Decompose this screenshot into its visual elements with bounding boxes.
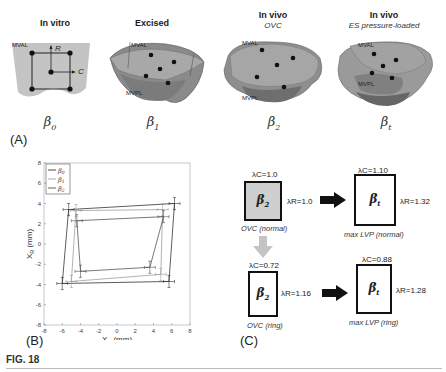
- y-axis-label: XR (mm): [25, 229, 35, 260]
- excised-valve-model: [106, 40, 206, 106]
- down-arrow-icon: [253, 236, 273, 258]
- panel-a-title-invitro: In vitro: [0, 18, 110, 28]
- caption-ovc-normal: OVC (normal): [241, 224, 287, 233]
- panel-a-label: (A): [10, 132, 27, 147]
- y-tick-label: 4: [38, 201, 42, 207]
- panel-a-subtitle-es: ES pressure-loaded: [329, 21, 439, 30]
- mval-label: MVAL: [358, 42, 374, 48]
- panel-a-title-invivo-ovc: In vivo: [218, 10, 328, 20]
- panel-a-subtitle-ovc: OVC: [218, 21, 328, 30]
- mvpl-label: MVPL: [358, 81, 374, 87]
- beta2-symbol: β2: [254, 114, 294, 132]
- caption-maxlvp-ring: max LVP (ring): [349, 318, 398, 327]
- panel-a-title-excised: Excised: [97, 18, 207, 28]
- axis-c-label: C: [78, 67, 84, 76]
- y-tick-label: 8: [38, 160, 42, 166]
- beta0-symbol: β0: [30, 114, 70, 132]
- lambda-r-ovc-normal: λR=1.0: [287, 197, 313, 206]
- figure-bottom-rule: [6, 368, 442, 369]
- panel-b-label: (B): [26, 333, 43, 348]
- caption-maxlvp-normal: max LVP (normal): [344, 230, 404, 239]
- x-tick-label: -6: [60, 328, 66, 334]
- y-tick-label: 0: [38, 241, 42, 247]
- y-tick-label: -4: [36, 282, 42, 288]
- invivo-ovc-valve-model: [222, 36, 326, 106]
- lambda-r-maxlvp-ring: λR=1.28: [396, 286, 426, 295]
- betat-label: βt: [368, 281, 379, 297]
- box-maxlvp-ring: βt: [356, 264, 392, 314]
- betat-symbol: βt: [366, 114, 406, 132]
- betat-label: βt: [369, 192, 380, 208]
- box-ovc-normal: β2: [244, 181, 282, 221]
- y-tick-label: -8: [36, 322, 42, 328]
- box-maxlvp-normal: βt: [354, 174, 396, 226]
- x-tick-label: -4: [78, 328, 84, 334]
- lambda-r-maxlvp-normal: λR=1.32: [400, 197, 430, 206]
- beta1-symbol: β1: [133, 114, 173, 132]
- y-tick-label: -6: [36, 302, 42, 308]
- x-tick-label: -2: [96, 328, 102, 334]
- x-tick-label: 8: [188, 328, 192, 334]
- lambda-c-maxlvp-ring: λC=0.88: [362, 255, 392, 264]
- mvpl-label: MVPL: [126, 90, 142, 96]
- right-arrow-icon: [322, 285, 348, 301]
- beta2-label: β2: [257, 286, 270, 302]
- lambda-r-ovc-ring: λR=1.16: [281, 289, 311, 298]
- y-tick-label: -2: [36, 261, 42, 267]
- beta2-label: β2: [257, 193, 270, 209]
- x-tick-label: 6: [170, 328, 174, 334]
- caption-ovc-ring: OVC (ring): [247, 321, 283, 330]
- lambda-c-ovc-ring: λC=0.72: [249, 261, 279, 270]
- box-ovc-ring: β2: [248, 271, 278, 317]
- xc-xr-trajectory-chart: -8-6-4-202468-8-6-4-202468XC (mm)XR (mm)…: [0, 150, 222, 340]
- mval-label: MVAL: [131, 42, 147, 48]
- x-tick-label: 4: [152, 328, 156, 334]
- invivo-es-valve-model: [336, 36, 436, 106]
- mval-label: MVAL: [242, 40, 258, 46]
- lambda-c-ovc-normal: λC=1.0: [252, 170, 278, 179]
- mvpl-label: MVPL: [242, 95, 258, 101]
- axis-r-label: R: [55, 44, 61, 53]
- y-tick-label: 6: [38, 180, 42, 186]
- panel-c-label: (C): [240, 333, 258, 348]
- x-tick-label: 0: [115, 328, 119, 334]
- right-arrow-icon: [320, 192, 346, 208]
- mval-label: MVAL: [12, 42, 28, 48]
- figure-label: FIG. 18: [6, 354, 39, 365]
- y-tick-label: 2: [38, 221, 42, 227]
- x-axis-label: XC (mm): [102, 335, 133, 340]
- panel-a-title-invivo-es: In vivo: [329, 10, 439, 20]
- x-tick-label: 2: [134, 328, 138, 334]
